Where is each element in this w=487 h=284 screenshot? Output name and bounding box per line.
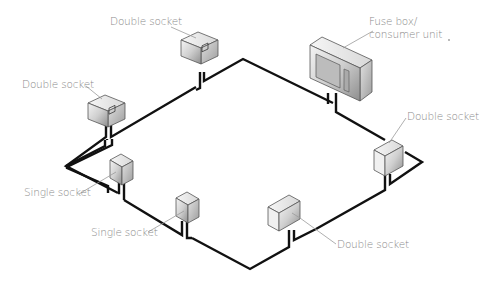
consumer-unit — [310, 37, 372, 101]
label-single-socket-middle: Single socket — [91, 226, 158, 238]
leader-double-socket-right — [389, 118, 406, 143]
consumer-unit-switch — [344, 69, 349, 92]
label-double-socket-left: Double socket — [22, 78, 94, 90]
ring-main-diagram — [0, 0, 487, 284]
label-double-socket-top: Double socket — [110, 15, 182, 27]
wire-segment — [294, 229, 316, 240]
double-socket-top — [181, 32, 218, 64]
double-socket-bottom — [268, 195, 300, 231]
label-fuse-box-line2: consumer unit — [369, 28, 442, 40]
single-socket-middle — [176, 192, 199, 223]
label-double-socket-bottom: Double socket — [337, 238, 409, 250]
stray-dot — [448, 39, 450, 41]
wire-segment — [316, 174, 385, 229]
wire-segment — [192, 230, 289, 269]
wire-segment — [196, 72, 200, 90]
double-socket-left — [88, 95, 125, 127]
label-single-socket-left: Single socket — [24, 186, 91, 198]
leader-double-socket-top — [171, 27, 196, 38]
single-socket-left — [110, 154, 133, 185]
double-socket-right — [374, 140, 403, 176]
label-fuse-box-line1: Fuse box/ — [369, 15, 417, 27]
label-double-socket-right: Double socket — [407, 110, 479, 122]
